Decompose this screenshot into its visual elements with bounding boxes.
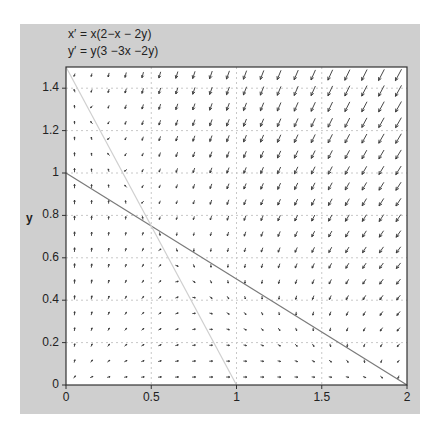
direction-field-plot [0,0,442,434]
direction-arrow-icon [108,201,109,204]
